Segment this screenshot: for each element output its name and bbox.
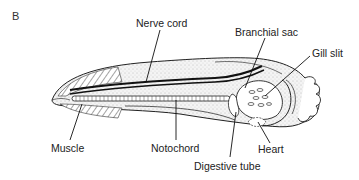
label-digestive-tube: Digestive tube [194,160,261,172]
label-muscle: Muscle [51,142,84,154]
label-nerve-cord: Nerve cord [136,17,187,29]
label-heart: Heart [258,143,284,155]
label-branchial-sac: Branchial sac [235,26,298,38]
notochord [72,96,230,101]
label-notochord: Notochord [151,142,199,154]
label-gill-slit: Gill slit [312,47,343,59]
